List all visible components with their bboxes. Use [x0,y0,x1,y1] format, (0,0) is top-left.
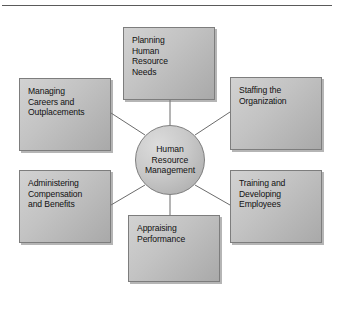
node-label-line: Staffing the [239,85,321,96]
connector-hub-to-staffing [195,112,230,135]
node-label-line: Organization [239,96,321,107]
connector-hub-to-managing [111,113,145,135]
node-label-line: Managing [28,86,110,97]
node-appraising-performance[interactable]: Appraising Performance [128,215,220,282]
connector-hub-to-training [195,185,230,205]
node-administering-compensation-and-benefits[interactable]: Administering Compensation and Benefits [19,170,111,243]
diagram-canvas: Planning Human Resource Needs Staffing t… [0,0,348,309]
node-label-line: Outplacements [28,107,110,118]
node-label-line: Administering [28,178,110,189]
node-label-line: Planning [132,35,214,46]
node-label-line: Developing [239,189,321,200]
node-planning-human-resource-needs[interactable]: Planning Human Resource Needs [123,27,215,100]
node-label-line: Resource [132,56,214,67]
node-label-line: Careers and [28,97,110,108]
hub-label-line: Management [145,165,195,176]
node-label-line: Performance [137,234,219,245]
connector-hub-to-administering [111,185,145,205]
node-staffing-the-organization[interactable]: Staffing the Organization [230,77,322,150]
node-managing-careers-and-outplacements[interactable]: Managing Careers and Outplacements [19,78,111,151]
node-label-line: Human [132,46,214,57]
node-label-line: Employees [239,199,321,210]
hub-human-resource-management[interactable]: Human Resource Management [135,125,205,195]
node-label-line: Appraising [137,223,219,234]
node-label-line: Training and [239,178,321,189]
node-label-line: Needs [132,67,214,78]
hub-label-line: Human [156,144,184,155]
node-training-and-developing-employees[interactable]: Training and Developing Employees [230,170,322,243]
node-label-line: Compensation [28,189,110,200]
node-label-line: and Benefits [28,199,110,210]
hub-label-line: Resource [152,155,189,166]
